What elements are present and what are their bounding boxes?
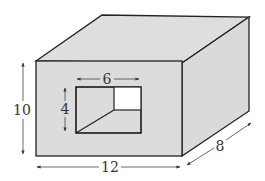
height-label: 10 [13, 102, 31, 118]
dimension-height: 10 [13, 63, 31, 154]
dimension-width: 12 [37, 159, 180, 175]
hole-opening [114, 87, 141, 110]
hole [76, 87, 141, 133]
depth-label: 8 [216, 138, 225, 154]
width-label: 12 [101, 159, 119, 175]
box-diagram: 10 12 8 6 4 [0, 0, 265, 181]
hole-width-label: 6 [103, 71, 112, 87]
hole-height-label: 4 [61, 101, 70, 117]
